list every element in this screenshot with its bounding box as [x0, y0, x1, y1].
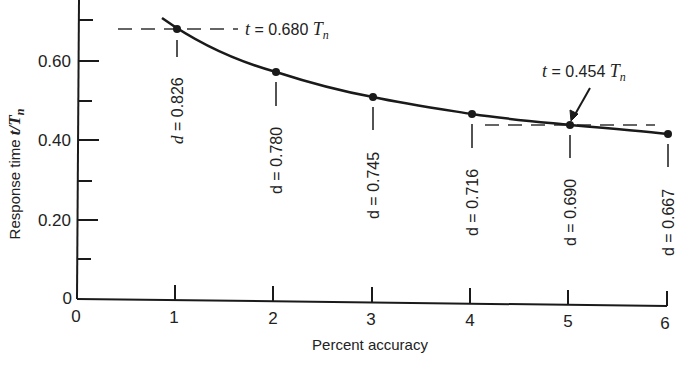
data-point — [173, 25, 181, 33]
y-axis-title: Response time t/Tn — [5, 108, 27, 239]
data-point — [468, 110, 476, 118]
data-points — [173, 25, 672, 138]
x-tick-label: 4 — [465, 311, 474, 330]
point-label: d = 0.780 — [268, 127, 285, 194]
annotation-arrow — [570, 88, 590, 121]
data-point — [272, 68, 280, 76]
point-label: d = 0.745 — [365, 152, 382, 219]
point-label: d = 0.826 — [168, 77, 187, 144]
point-label: d = 0.716 — [464, 169, 481, 236]
x-tick-label: 6 — [660, 314, 669, 333]
y-tick-label: 0 — [63, 289, 72, 308]
x-tick-label: 5 — [563, 312, 572, 331]
data-point — [566, 121, 574, 129]
x-axis-title: Percent accuracy — [312, 336, 428, 353]
y-tick-label: 0.20 — [38, 211, 71, 230]
y-tick-label: 0.60 — [38, 52, 71, 71]
annotation-t-0454: t = 0.454 Tn — [542, 61, 626, 84]
point-label: d = 0.690 — [562, 179, 579, 246]
data-point — [369, 93, 377, 101]
x-tick-label: 2 — [268, 309, 277, 328]
y-tick-label: 0.40 — [38, 131, 71, 150]
point-label-text: = 0.826 — [169, 77, 186, 135]
y-tick-labels: 0.60 0.40 0.20 0 — [38, 52, 72, 308]
leader-lines — [177, 40, 668, 167]
x-tick-label: 0 — [71, 307, 80, 326]
x-tick-labels: 0 1 2 3 4 5 6 — [71, 307, 669, 333]
data-point — [664, 130, 672, 138]
point-label: d = 0.667 — [660, 189, 677, 256]
x-tick-label: 1 — [169, 308, 178, 327]
response-time-chart: 0.60 0.40 0.20 0 0 1 2 3 4 5 6 Percent a… — [0, 0, 677, 366]
point-labels: d = 0.826 d = 0.780 d = 0.745 d = 0.716 … — [168, 77, 677, 256]
annotation-t-0680: t = 0.680 Tn — [245, 19, 329, 42]
y-axis — [77, 0, 99, 299]
x-axis — [77, 285, 667, 306]
x-tick-label: 3 — [366, 310, 375, 329]
